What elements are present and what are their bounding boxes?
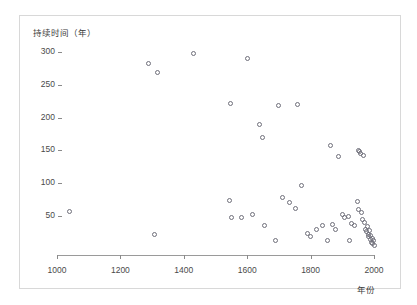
data-point xyxy=(228,101,233,106)
x-tick-label: 1600 xyxy=(227,265,267,275)
x-tick-mark xyxy=(57,255,58,259)
y-tick-label: 50 xyxy=(29,210,55,220)
x-tick-mark xyxy=(374,255,375,259)
y-tick-mark xyxy=(58,52,62,53)
data-point xyxy=(239,215,244,220)
data-point xyxy=(67,209,72,214)
y-tick-label: 100 xyxy=(29,177,55,187)
data-point xyxy=(295,102,300,107)
figure: 持续时间（年） 年份 50100150200250300 10001200140… xyxy=(0,0,417,305)
data-point xyxy=(359,210,364,215)
data-point xyxy=(229,215,234,220)
x-tick-mark xyxy=(184,255,185,259)
y-tick-mark xyxy=(58,85,62,86)
y-tick-label: 150 xyxy=(29,144,55,154)
y-tick-label: 200 xyxy=(29,112,55,122)
y-tick-label: 300 xyxy=(29,46,55,56)
data-point xyxy=(299,183,304,188)
data-point xyxy=(372,243,377,248)
data-point xyxy=(333,227,338,232)
y-axis-title: 持续时间（年） xyxy=(33,26,96,38)
y-tick-mark xyxy=(58,150,62,151)
x-tick-label: 1000 xyxy=(37,265,77,275)
x-tick-label: 1800 xyxy=(291,265,331,275)
data-point xyxy=(280,195,285,200)
data-point xyxy=(325,238,330,243)
data-point xyxy=(293,206,298,211)
data-point xyxy=(250,212,255,217)
x-tick-label: 1200 xyxy=(100,265,140,275)
data-point xyxy=(257,122,262,127)
data-point xyxy=(191,51,196,56)
data-point xyxy=(146,61,151,66)
data-point xyxy=(287,200,292,205)
data-point xyxy=(227,198,232,203)
data-point xyxy=(273,238,278,243)
data-point xyxy=(262,223,267,228)
data-point xyxy=(276,103,281,108)
data-point xyxy=(308,234,313,239)
x-axis-title: 年份 xyxy=(357,283,375,295)
data-point xyxy=(347,238,352,243)
data-point xyxy=(155,70,160,75)
x-tick-mark xyxy=(247,255,248,259)
y-tick-mark xyxy=(58,216,62,217)
data-point xyxy=(328,143,333,148)
data-point xyxy=(260,135,265,140)
data-point xyxy=(152,232,157,237)
data-point xyxy=(361,153,366,158)
data-point xyxy=(346,214,351,219)
x-tick-mark xyxy=(311,255,312,259)
data-point xyxy=(245,56,250,61)
data-point xyxy=(355,199,360,204)
y-tick-mark xyxy=(58,118,62,119)
x-tick-label: 2000 xyxy=(354,265,394,275)
data-point xyxy=(367,228,372,233)
x-axis-line xyxy=(57,255,375,256)
data-point xyxy=(320,223,325,228)
data-point xyxy=(314,227,319,232)
y-tick-mark xyxy=(58,183,62,184)
y-tick-label: 250 xyxy=(29,79,55,89)
scatter-plot: 持续时间（年） 年份 50100150200250300 10001200140… xyxy=(0,0,417,305)
x-tick-mark xyxy=(120,255,121,259)
x-tick-label: 1400 xyxy=(164,265,204,275)
data-point xyxy=(336,154,341,159)
data-point xyxy=(352,223,357,228)
